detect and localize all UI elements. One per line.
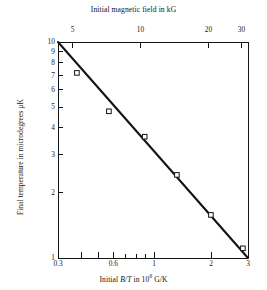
top-tick-label-0: 5 bbox=[63, 25, 83, 34]
data-point bbox=[241, 246, 246, 251]
x-tick-label-2: 1 bbox=[144, 259, 164, 268]
top-tick-marks bbox=[73, 42, 242, 48]
top-tick-label-3: 30 bbox=[232, 25, 252, 34]
data-point bbox=[107, 109, 112, 114]
y-tick-label-3: 3 bbox=[41, 150, 55, 159]
x-tick-label-4: 3 bbox=[238, 259, 258, 268]
data-point bbox=[175, 173, 180, 178]
fit-line bbox=[58, 42, 248, 258]
top-axis-title: Initial magnetic field in kG bbox=[0, 5, 267, 14]
chart-figure: Initial magnetic field in kG Final tempe… bbox=[0, 0, 267, 290]
data-points bbox=[75, 71, 246, 251]
x-axis-title: Initial B/T in 106 G/K bbox=[0, 273, 267, 284]
data-point bbox=[209, 213, 214, 218]
y-tick-label-6: 6 bbox=[41, 85, 55, 94]
y-axis-title-wrapper: Final temperature in microdegrees µK bbox=[9, 47, 23, 267]
y-tick-label-10: 10 bbox=[35, 37, 55, 46]
y-axis-title: Final temperature in microdegrees µK bbox=[16, 99, 25, 215]
x-tick-label-3: 2 bbox=[201, 259, 221, 268]
top-tick-label-2: 20 bbox=[199, 25, 219, 34]
x-tick-marks bbox=[58, 252, 248, 258]
data-point bbox=[75, 71, 80, 76]
y-tick-label-4: 4 bbox=[41, 123, 55, 132]
top-tick-label-1: 10 bbox=[131, 25, 151, 34]
y-tick-label-7: 7 bbox=[41, 71, 55, 80]
x-tick-label-1: 0.6 bbox=[103, 259, 123, 268]
y-tick-label-9: 9 bbox=[41, 47, 55, 56]
y-tick-marks bbox=[58, 42, 63, 258]
data-point bbox=[142, 134, 147, 139]
y-tick-label-5: 5 bbox=[41, 102, 55, 111]
y-tick-label-2: 2 bbox=[41, 188, 55, 197]
y-tick-label-1: 1 bbox=[41, 253, 55, 262]
y-tick-label-8: 8 bbox=[41, 58, 55, 67]
